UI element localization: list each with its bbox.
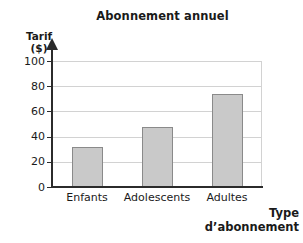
plot-area	[52, 61, 262, 187]
chart-title: Abonnement annuel	[0, 9, 303, 23]
y-axis-tick-label: 100	[1, 56, 45, 67]
category-label-adultes: Adultes	[177, 191, 277, 205]
plot-right-edge	[261, 61, 262, 187]
bar-enfants	[72, 147, 103, 187]
x-axis-category-labels: EnfantsAdolescentsAdultes	[52, 191, 262, 207]
bar-chart-figure: Abonnement annuel Tarif ($) 100806040200…	[0, 0, 303, 243]
y-axis-tick-label: 20	[1, 156, 45, 167]
gridline	[52, 86, 262, 87]
y-axis-arrow-icon	[46, 38, 58, 50]
y-axis-tick-mark	[47, 111, 53, 112]
bar-adultes	[212, 94, 243, 187]
y-axis-tick-labels: 100806040200	[0, 0, 45, 243]
x-axis-line	[51, 186, 263, 188]
x-axis-title: Type d’abonnement	[119, 207, 299, 234]
y-axis-tick-mark	[47, 61, 53, 62]
x-axis-title-line2: d’abonnement	[119, 221, 299, 235]
x-axis-title-line1: Type	[119, 207, 299, 221]
gridline	[52, 61, 262, 62]
y-axis-tick-label: 60	[1, 106, 45, 117]
y-axis-line	[51, 47, 53, 188]
y-axis-tick-mark	[47, 162, 53, 163]
y-axis-tick-mark	[47, 137, 53, 138]
y-axis-tick-label: 40	[1, 131, 45, 142]
bar-adolescents	[142, 127, 173, 187]
y-axis-tick-mark	[47, 187, 53, 188]
y-axis-tick-label: 80	[1, 81, 45, 92]
y-axis-tick-mark	[47, 86, 53, 87]
